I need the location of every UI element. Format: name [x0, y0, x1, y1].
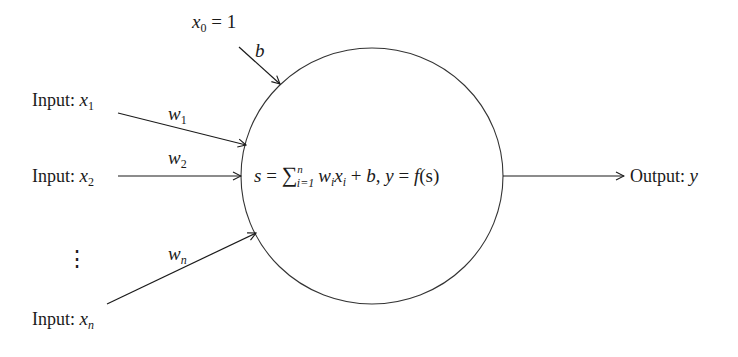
output-label: Output: y	[630, 165, 699, 186]
weight-2-label: w2	[168, 147, 187, 171]
bias-weight-label: b	[255, 40, 265, 61]
weight-1-label: w1	[168, 103, 187, 127]
input-1-label: Input: x1	[32, 89, 94, 113]
input-n-label: Input: xn	[32, 308, 94, 332]
vertical-ellipsis: ⋮	[66, 246, 88, 271]
weight-n-label: wn	[168, 243, 187, 267]
input-2-label: Input: x2	[32, 165, 94, 189]
input-n-arrow	[107, 233, 256, 304]
neuron-diagram: x0 = 1 b Input: x1 w1 Input: x2 w2 ⋮ wn …	[0, 0, 738, 357]
bias-input-label: x0 = 1	[191, 11, 236, 35]
neuron-formula: s = ∑ni=1wixi + b, y = f(s)	[254, 162, 439, 190]
